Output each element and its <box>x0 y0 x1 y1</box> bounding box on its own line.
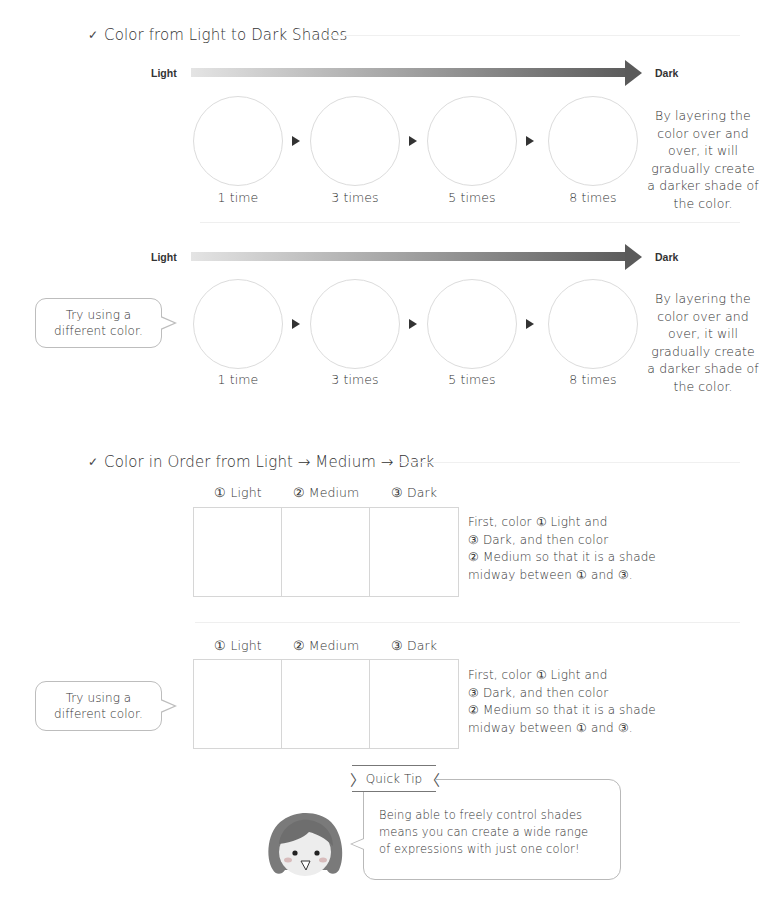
swatch-dark[interactable] <box>370 660 458 748</box>
row-divider <box>195 622 740 623</box>
shade-circle-4[interactable] <box>548 96 638 186</box>
chevron-left-icon: 〈 <box>425 769 440 790</box>
play-arrow-icon <box>526 136 534 146</box>
column-header-light: ① Light <box>194 638 282 653</box>
layering-note: By layering the color over and over, it … <box>643 107 763 212</box>
step-label: 8 times <box>548 190 638 205</box>
play-arrow-icon <box>292 136 300 146</box>
section-title-text: Color from Light to Dark Shades <box>104 26 347 44</box>
order-note: First, color ① Light and ③ Dark, and the… <box>468 514 656 584</box>
check-icon: ✓ <box>88 455 98 469</box>
shade-circle-3[interactable] <box>427 96 517 186</box>
play-arrow-icon <box>526 319 534 329</box>
column-header-dark: ③ Dark <box>370 485 458 500</box>
arrow-head-icon <box>625 244 642 270</box>
light-to-dark-arrow <box>191 60 642 86</box>
section-rule <box>400 462 740 463</box>
scale-light-label: Light <box>151 67 177 79</box>
swatch-medium[interactable] <box>282 508 370 596</box>
try-different-color-bubble: Try using a different color. <box>35 681 162 731</box>
shade-circle-3[interactable] <box>427 279 517 369</box>
shade-circle-4[interactable] <box>548 279 638 369</box>
try-different-color-bubble: Try using a different color. <box>35 298 162 348</box>
section-title-light-medium-dark: ✓ Color in Order from Light → Medium → D… <box>88 453 434 471</box>
shade-circle-1[interactable] <box>193 279 283 369</box>
step-label: 1 time <box>193 372 283 387</box>
section-title-text: Color in Order from Light → Medium → Dar… <box>104 453 434 471</box>
swatch-grid <box>193 659 459 749</box>
step-label: 1 time <box>193 190 283 205</box>
bubble-tail-icon <box>161 316 177 330</box>
step-label: 3 times <box>310 372 400 387</box>
shade-circle-2[interactable] <box>310 96 400 186</box>
step-label: 5 times <box>427 372 517 387</box>
column-header-medium: ② Medium <box>282 485 370 500</box>
arrow-head-icon <box>625 60 642 86</box>
shade-circle-2[interactable] <box>310 279 400 369</box>
chevron-right-icon: 〉 <box>350 769 365 790</box>
girl-mascot-icon <box>263 808 348 883</box>
check-icon: ✓ <box>88 28 98 42</box>
step-label: 5 times <box>427 190 517 205</box>
scale-dark-label: Dark <box>655 67 678 79</box>
section-rule <box>325 35 740 36</box>
scale-dark-label: Dark <box>655 251 678 263</box>
shade-circle-1[interactable] <box>193 96 283 186</box>
layering-note: By layering the color over and over, it … <box>643 290 763 395</box>
order-note: First, color ① Light and ③ Dark, and the… <box>468 667 656 737</box>
play-arrow-icon <box>409 136 417 146</box>
play-arrow-icon <box>409 319 417 329</box>
scale-light-label: Light <box>151 251 177 263</box>
light-to-dark-arrow <box>191 244 642 270</box>
swatch-grid <box>193 507 459 597</box>
quick-tip-label: Quick Tip <box>366 772 423 786</box>
step-label: 8 times <box>548 372 638 387</box>
column-header-light: ① Light <box>194 485 282 500</box>
swatch-light[interactable] <box>194 660 282 748</box>
column-header-dark: ③ Dark <box>370 638 458 653</box>
swatch-medium[interactable] <box>282 660 370 748</box>
swatch-light[interactable] <box>194 508 282 596</box>
step-label: 3 times <box>310 190 400 205</box>
section-title-light-to-dark: ✓ Color from Light to Dark Shades <box>88 26 347 44</box>
swatch-dark[interactable] <box>370 508 458 596</box>
bubble-tail-icon <box>161 699 177 713</box>
play-arrow-icon <box>292 319 300 329</box>
column-header-medium: ② Medium <box>282 638 370 653</box>
tip-bubble-tail-icon <box>350 838 364 850</box>
quick-tip-body: Being able to freely control shades mean… <box>379 807 609 858</box>
quick-tip-banner: 〉 Quick Tip 〈 <box>352 765 436 792</box>
row-divider <box>200 222 740 223</box>
